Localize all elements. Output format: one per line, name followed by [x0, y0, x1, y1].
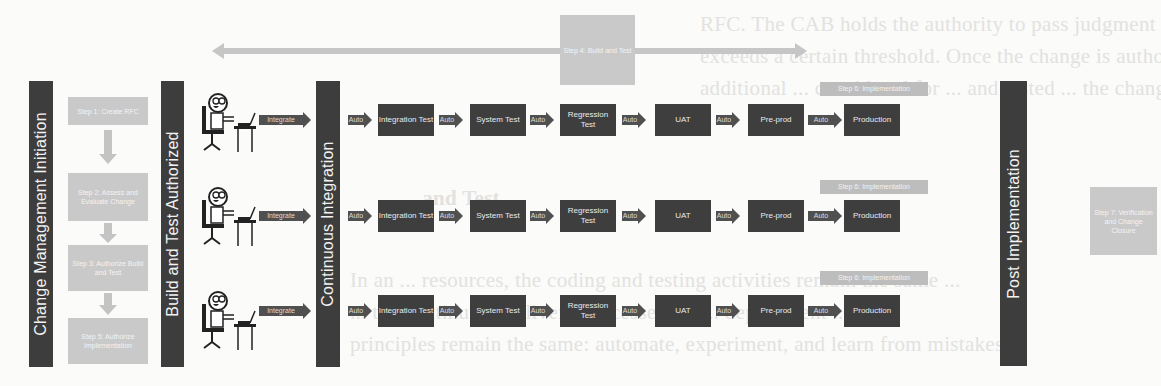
step-5-authorize-implementation: Step 5: Authorize Implementation: [68, 318, 148, 364]
phase-label: Change Management Initiation: [32, 112, 50, 336]
stage-pre-prod: Pre-prod: [748, 295, 804, 327]
phase-label: Post Implementation: [1005, 149, 1023, 299]
stage-production: Production: [844, 295, 900, 327]
integrate-arrow: Integrate: [259, 303, 311, 319]
step-1-create-rfc: Step 1: Create RFC: [68, 97, 148, 125]
stage-system-test: System Test: [470, 200, 526, 232]
stage-production: Production: [844, 200, 900, 232]
phase-label: Build and Test Authorized: [164, 131, 182, 316]
down-arrow-icon: [99, 130, 117, 164]
phase-label: Continuous Integration: [319, 141, 337, 306]
auto-arrow: Auto: [348, 112, 372, 128]
auto-arrow: Auto: [530, 208, 554, 224]
stage-uat: UAT: [655, 104, 711, 136]
auto-arrow: Auto: [439, 303, 463, 319]
step-3-authorize-build-and-test: Step 3: Authorize Build and Test: [68, 245, 148, 291]
stage-regression-test: Regression Test: [560, 200, 616, 232]
phase-bar-change-management-initiation: Change Management Initiation: [29, 81, 53, 367]
integrate-arrow: Integrate: [259, 208, 311, 224]
phase-bar-build-and-test-authorized: Build and Test Authorized: [161, 81, 184, 367]
bleedthrough-line: principles remain the same: automate, ex…: [350, 332, 1009, 357]
auto-arrow: Auto: [808, 303, 842, 319]
step-6-implementation-label: Step 6: Implementation: [820, 180, 928, 194]
auto-arrow: Auto: [530, 303, 554, 319]
stage-integration-test: Integration Test: [378, 104, 434, 136]
down-arrow-icon: [99, 293, 117, 315]
step-2-assess-and-evaluate-change: Step 2: Assess and Evaluate Change: [68, 173, 148, 221]
auto-arrow: Auto: [439, 112, 463, 128]
developer-at-desk-icon: [198, 290, 260, 352]
step-7-verification-and-change-closure: Step 7: Verification and Change Closure: [1090, 187, 1157, 255]
stage-pre-prod: Pre-prod: [748, 104, 804, 136]
down-arrow-icon: [99, 223, 117, 243]
auto-arrow: Auto: [716, 208, 740, 224]
auto-arrow: Auto: [622, 112, 646, 128]
auto-arrow: Auto: [439, 208, 463, 224]
bleedthrough-line: additional ... considered for ... and te…: [700, 76, 1161, 101]
stage-production: Production: [844, 104, 900, 136]
stage-regression-test: Regression Test: [560, 295, 616, 327]
auto-arrow: Auto: [808, 112, 842, 128]
step-4-build-and-test: Step 4: Build and Test: [560, 15, 635, 85]
stage-integration-test: Integration Test: [378, 295, 434, 327]
stage-integration-test: Integration Test: [378, 200, 434, 232]
build-and-test-span-arrow: [212, 42, 807, 62]
auto-arrow: Auto: [622, 208, 646, 224]
auto-arrow: Auto: [530, 112, 554, 128]
auto-arrow: Auto: [716, 112, 740, 128]
developer-at-desk-icon: [198, 186, 260, 248]
stage-regression-test: Regression Test: [560, 104, 616, 136]
stage-system-test: System Test: [470, 295, 526, 327]
bleedthrough-line: RFC. The CAB holds the authority to pass…: [700, 12, 1161, 37]
phase-bar-post-implementation: Post Implementation: [1000, 81, 1027, 366]
developer-at-desk-icon: [198, 92, 260, 154]
stage-pre-prod: Pre-prod: [748, 200, 804, 232]
step-6-implementation-label: Step 6: Implementation: [820, 82, 928, 96]
auto-arrow: Auto: [348, 303, 372, 319]
stage-uat: UAT: [655, 295, 711, 327]
stage-system-test: System Test: [470, 104, 526, 136]
auto-arrow: Auto: [622, 303, 646, 319]
integrate-arrow: Integrate: [259, 112, 311, 128]
auto-arrow: Auto: [348, 208, 372, 224]
stage-uat: UAT: [655, 200, 711, 232]
step-6-implementation-label: Step 6: Implementation: [820, 271, 928, 285]
auto-arrow: Auto: [808, 208, 842, 224]
auto-arrow: Auto: [716, 303, 740, 319]
phase-bar-continuous-integration: Continuous Integration: [316, 81, 340, 367]
